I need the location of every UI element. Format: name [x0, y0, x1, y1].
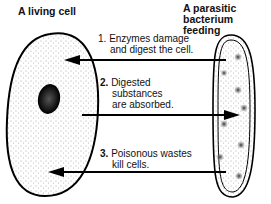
bacterium-title: A parasitic bacterium feeding — [183, 3, 271, 36]
living-cell-title: A living cell — [18, 6, 76, 17]
step-3-label: 3. Poisonous wastes kill cells. — [100, 148, 192, 170]
step-2-label: 2. Digested substances are absorbed. — [100, 77, 174, 110]
step-1-label: 1. Enzymes damage and digest the cell. — [98, 33, 193, 55]
